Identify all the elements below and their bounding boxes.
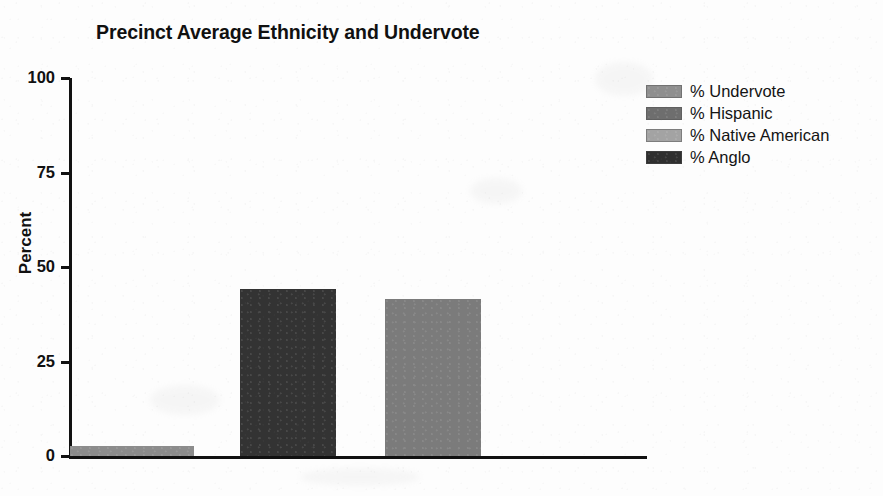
legend-swatch (646, 151, 682, 164)
y-tick-label-25: 25 (37, 353, 55, 370)
x-axis-line (69, 456, 647, 459)
y-tick-mark-25 (61, 361, 70, 364)
legend-swatch-texture (647, 130, 681, 141)
bar-anglo (240, 289, 336, 456)
legend-swatch-texture (647, 108, 681, 119)
legend-item: % Anglo (646, 146, 882, 168)
chart-legend: % Undervote% Hispanic% Native American% … (646, 80, 882, 168)
y-tick-mark-100 (61, 77, 70, 80)
y-tick-mark-0 (61, 455, 70, 458)
legend-swatch-texture (647, 152, 681, 163)
y-tick-label-50: 50 (37, 258, 55, 275)
legend-label: % Anglo (690, 149, 751, 166)
legend-label: % Undervote (690, 83, 785, 100)
y-tick-label-100: 100 (27, 69, 55, 86)
legend-item: % Undervote (646, 80, 882, 102)
legend-item: % Native American (646, 124, 882, 146)
y-tick-mark-50 (61, 266, 70, 269)
y-tick-label-0: 0 (46, 447, 55, 464)
bar-texture (240, 289, 336, 456)
bar-texture (385, 299, 481, 456)
legend-swatch (646, 107, 682, 120)
legend-swatch (646, 85, 682, 98)
plot-area: 0255075100 Percent (0, 0, 883, 496)
y-tick-mark-75 (61, 172, 70, 175)
legend-swatch-texture (647, 86, 681, 97)
y-tick-label-75: 75 (37, 164, 55, 181)
bar-hispanic (385, 299, 481, 456)
bar-undervote (70, 446, 194, 456)
legend-label: % Native American (690, 127, 829, 144)
chart-canvas: Precinct Average Ethnicity and Undervote… (0, 0, 883, 496)
legend-swatch (646, 129, 682, 142)
legend-label: % Hispanic (690, 105, 773, 122)
legend-item: % Hispanic (646, 102, 882, 124)
y-axis-title: Percent (16, 198, 36, 288)
bar-texture (70, 446, 194, 456)
